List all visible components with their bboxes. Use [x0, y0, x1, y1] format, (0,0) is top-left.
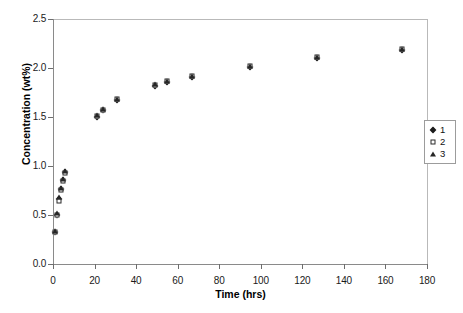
data-point-series-3: [60, 176, 66, 181]
x-tick-label: 180: [407, 270, 447, 288]
y-tick: [48, 215, 53, 216]
x-tick-label: 80: [199, 270, 239, 288]
x-tick-label: 160: [365, 270, 405, 288]
data-point-series-3: [100, 107, 106, 112]
legend-item-label: 3: [440, 149, 445, 159]
x-axis-line: [53, 264, 428, 265]
x-tick-label-text: 100: [253, 275, 269, 286]
data-point-series-3: [314, 55, 320, 60]
x-tick: [53, 264, 54, 269]
filled-diamond-icon: [428, 125, 438, 135]
x-tick-label-text: 0: [50, 275, 55, 286]
y-tick: [48, 166, 53, 167]
x-tick-label: 20: [75, 270, 115, 288]
y-tick-label: 0.5: [0, 210, 46, 220]
x-tick: [178, 264, 179, 269]
x-tick-label: 60: [158, 270, 198, 288]
data-point-series-3: [54, 211, 60, 216]
data-point-series-3: [164, 78, 170, 83]
data-point-series-3: [58, 185, 64, 190]
data-point-series-3: [52, 228, 58, 233]
data-point-series-3: [56, 195, 62, 200]
data-point-series-3: [247, 64, 253, 69]
x-tick: [219, 264, 220, 269]
x-tick: [302, 264, 303, 269]
x-tick-label: 120: [282, 270, 322, 288]
x-tick: [344, 264, 345, 269]
scatter-chart: 0.00.51.01.52.02.5 020406080100120140160…: [0, 0, 463, 313]
x-tick-label: 40: [116, 270, 156, 288]
filled-triangle-icon: [428, 149, 438, 159]
plot-frame-top: [53, 19, 428, 20]
y-tick-label-text: 0.5: [6, 210, 46, 220]
x-tick: [136, 264, 137, 269]
y-axis-title: Concentration (wt%): [20, 24, 32, 204]
legend-item-label: 1: [440, 125, 445, 135]
x-tick-label: 0: [33, 270, 73, 288]
x-tick-label: 100: [241, 270, 281, 288]
data-point-series-3: [94, 113, 100, 118]
y-tick-label: 2.5: [0, 14, 46, 24]
x-tick-label-text: 60: [172, 275, 183, 286]
chart-legend: 123: [424, 120, 456, 164]
x-tick-label: 140: [324, 270, 364, 288]
y-tick: [48, 19, 53, 20]
legend-item-label: 2: [440, 137, 445, 147]
x-tick-label-text: 80: [214, 275, 225, 286]
data-point-series-3: [399, 47, 405, 52]
y-tick-label-text: 2.5: [6, 14, 46, 24]
x-tick-label-text: 40: [131, 275, 142, 286]
x-tick-label-text: 140: [336, 275, 352, 286]
data-point-series-3: [62, 168, 68, 173]
x-tick: [95, 264, 96, 269]
legend-item-3[interactable]: 3: [428, 148, 453, 160]
open-square-icon: [428, 137, 438, 147]
x-axis-title: Time (hrs): [53, 288, 428, 300]
data-point-series-3: [189, 73, 195, 78]
x-tick-label-text: 20: [89, 275, 100, 286]
data-point-series-3: [114, 97, 120, 102]
legend-item-2[interactable]: 2: [428, 136, 453, 148]
y-tick-label-text: 0.0: [6, 259, 46, 269]
x-tick: [427, 264, 428, 269]
data-point-series-3: [152, 81, 158, 86]
x-tick-label-text: 180: [419, 275, 435, 286]
x-tick-label-text: 160: [377, 275, 393, 286]
x-tick-label-text: 120: [294, 275, 310, 286]
y-tick: [48, 68, 53, 69]
legend-item-1[interactable]: 1: [428, 124, 453, 136]
x-tick: [261, 264, 262, 269]
x-tick: [385, 264, 386, 269]
y-tick: [48, 117, 53, 118]
y-tick-label: 0.0: [0, 259, 46, 269]
